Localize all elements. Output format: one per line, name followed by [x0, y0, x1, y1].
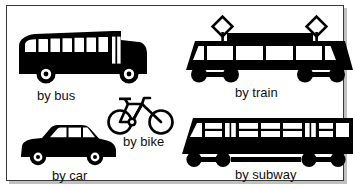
subway-item[interactable] — [179, 110, 353, 170]
car-label: by car — [52, 169, 87, 182]
bus-label: by bus — [37, 89, 75, 102]
train-label: by train — [235, 86, 278, 99]
train-icon — [183, 14, 353, 84]
car-item[interactable] — [19, 122, 119, 168]
subway-label: by subway — [235, 168, 296, 181]
transport-pictogram-poster: by bus — [0, 0, 353, 190]
train-item[interactable] — [183, 14, 353, 84]
bus-item[interactable] — [17, 28, 149, 86]
subway-icon — [179, 110, 353, 170]
poster-frame: by bus — [6, 5, 344, 181]
bike-label: by bike — [123, 135, 164, 148]
car-icon — [19, 122, 119, 168]
bus-icon — [17, 28, 149, 86]
